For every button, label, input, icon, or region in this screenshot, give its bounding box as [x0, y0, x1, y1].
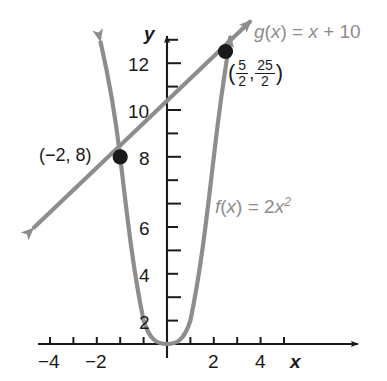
y-axis-label: y: [144, 24, 155, 43]
y-tick-label-8: 8: [139, 149, 150, 168]
parabola-f: [100, 36, 230, 344]
x-axis: [38, 337, 358, 344]
g-rhs-rest: + 10: [323, 21, 361, 42]
g-function-name: g: [254, 21, 265, 42]
x-tick-label-minus4: −4: [38, 352, 60, 371]
point-marker-minus2-8: [113, 149, 128, 164]
x-tick-label-minus2: −2: [85, 352, 107, 371]
y-tick-label-4: 4: [139, 266, 150, 285]
f-rhs-variable: x: [275, 196, 285, 217]
g-equals: =: [292, 21, 308, 42]
pt-b-close-paren: ): [276, 60, 283, 85]
point-label-five-halves: (52,252): [228, 58, 283, 88]
y-tick-label-10: 10: [128, 102, 149, 121]
graph-figure: 2 4 6 8 10 12 −4 −2 2 4 y x g(x) = x + 1…: [0, 0, 387, 381]
x-axis-label: x: [290, 352, 301, 371]
fraction-twentyfive-halves: 252: [255, 58, 275, 88]
y-tick-label-2: 2: [139, 313, 150, 332]
pt-b-comma: ,: [249, 63, 254, 83]
f-exponent: 2: [284, 195, 291, 209]
fraction-numerator: 25: [255, 58, 275, 73]
f-equals: = 2: [248, 196, 275, 217]
fraction-numerator: 5: [236, 58, 248, 73]
y-axis-ticks: [167, 40, 181, 321]
function-label-f: f(x) = 2x2: [215, 196, 291, 216]
y-tick-label-6: 6: [139, 219, 150, 238]
fraction-denominator: 2: [255, 73, 275, 89]
fraction-five-halves: 52: [236, 58, 248, 88]
fraction-denominator: 2: [236, 73, 248, 89]
pt-b-open-paren: (: [228, 60, 235, 85]
g-close-paren: ): [280, 21, 286, 42]
g-variable: x: [271, 21, 281, 42]
x-tick-label-2: 2: [208, 352, 219, 371]
f-variable: x: [227, 196, 237, 217]
function-label-g: g(x) = x + 10: [254, 22, 361, 41]
coordinate-plane-svg: [0, 0, 387, 381]
x-tick-label-4: 4: [255, 352, 266, 371]
point-label-minus2-8: (−2, 8): [39, 146, 92, 164]
f-close-paren: ): [236, 196, 242, 217]
y-tick-label-12: 12: [128, 55, 149, 74]
y-axis: [167, 36, 181, 358]
point-marker-five-halves: [218, 44, 233, 59]
g-rhs-variable: x: [308, 21, 318, 42]
